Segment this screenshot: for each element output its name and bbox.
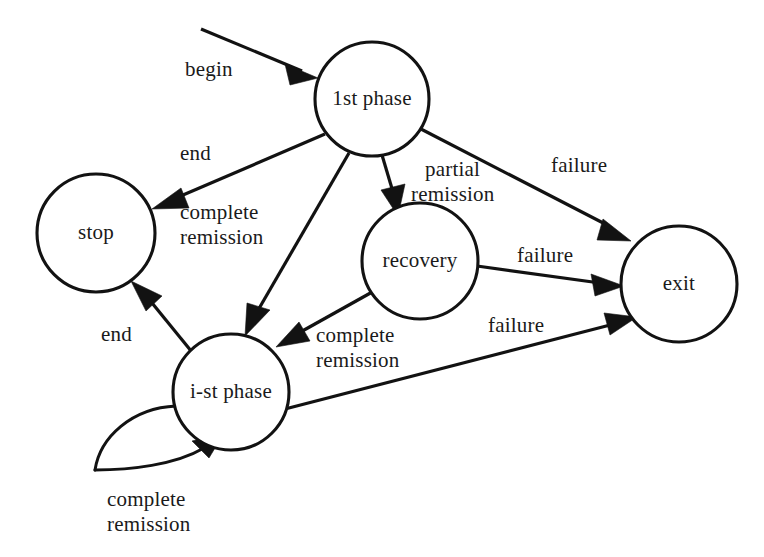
node-recovery[interactable]: recovery: [362, 203, 478, 319]
edge-label-complete-remission-r-line1: complete: [316, 323, 395, 347]
edge-label-failure-ist-to-exit: failure: [488, 313, 544, 337]
edge-recovery-to-ist-arrowhead: [276, 322, 310, 347]
node-first-phase[interactable]: 1st phase: [315, 42, 429, 156]
state-diagram-canvas: 1st phase stop recovery exit i-st phase …: [0, 0, 764, 557]
node-exit-label: exit: [663, 271, 695, 295]
edge-first-to-recovery-line: [382, 155, 393, 192]
node-i-st-phase-label: i-st phase: [190, 379, 272, 403]
edge-first-to-stop[interactable]: [152, 134, 325, 209]
edge-label-failure-recovery-to-exit: failure: [517, 243, 573, 267]
edge-label-end-first-to-stop: end: [180, 141, 211, 165]
edge-ist-self-loop-inbound: [95, 448, 204, 470]
edge-ist-self-loop-outbound: [95, 406, 176, 470]
edge-label-complete-remission-r-line2: remission: [316, 348, 400, 372]
edge-label-partial-remission-line1: partial: [425, 157, 480, 181]
edge-label-complete-remission-recovery-to-ist: complete remission: [316, 323, 400, 372]
edge-recovery-to-exit[interactable]: [477, 266, 624, 296]
edge-label-self-loop-line2: remission: [107, 512, 191, 536]
node-stop[interactable]: stop: [37, 174, 155, 292]
edge-ist-to-stop[interactable]: [131, 281, 196, 357]
edge-label-partial-remission: partial remission: [411, 157, 495, 206]
edge-label-complete-remission-line2: remission: [180, 225, 264, 249]
edge-first-to-exit-arrowhead: [597, 219, 631, 241]
edge-begin-arrowhead: [285, 64, 318, 85]
node-exit[interactable]: exit: [621, 226, 737, 342]
node-recovery-label: recovery: [382, 248, 457, 272]
edge-first-to-ist-line: [257, 153, 349, 312]
edge-label-complete-remission-self-loop: complete remission: [107, 487, 191, 536]
edge-ist-to-stop-line: [148, 298, 196, 357]
edge-label-complete-remission-first-to-ist: complete remission: [180, 200, 264, 249]
state-diagram-svg: 1st phase stop recovery exit i-st phase …: [0, 0, 764, 557]
edge-first-to-ist-arrowhead: [245, 303, 270, 336]
edge-label-self-loop-line1: complete: [107, 487, 186, 511]
node-i-st-phase[interactable]: i-st phase: [173, 334, 289, 450]
node-first-phase-label: 1st phase: [332, 86, 411, 110]
edge-label-complete-remission-line1: complete: [180, 200, 259, 224]
edge-recovery-to-exit-arrowhead: [591, 274, 624, 296]
edge-label-partial-remission-line2: remission: [411, 182, 495, 206]
edge-label-end-ist-to-stop: end: [101, 322, 132, 346]
edge-recovery-to-exit-line: [477, 266, 600, 283]
edge-label-begin: begin: [185, 57, 233, 81]
edge-label-failure-first-to-exit: failure: [551, 153, 607, 177]
edge-ist-to-stop-arrowhead: [131, 281, 162, 311]
node-stop-label: stop: [78, 220, 114, 244]
